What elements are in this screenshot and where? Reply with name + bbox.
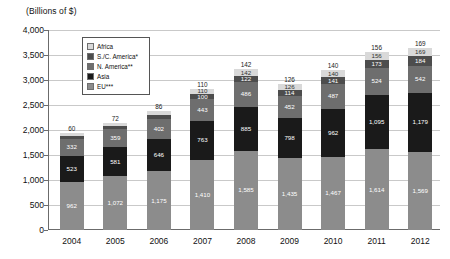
bar-segment-value: 523 xyxy=(60,166,84,172)
stacked-bar[interactable]: 1561735241,0951,614 xyxy=(365,52,389,230)
y-axis-tick-label: 1,000 xyxy=(6,175,44,185)
bar-segment[interactable]: 141 xyxy=(321,77,345,84)
bar-segment[interactable]: 359 xyxy=(103,129,127,147)
bar-segment-value: 332 xyxy=(60,144,84,150)
bar-segment[interactable]: 142 xyxy=(234,69,258,76)
bar-segment[interactable]: 523 xyxy=(60,156,84,182)
bar-segment-value: 1,175 xyxy=(147,198,171,204)
bar-segment[interactable]: 646 xyxy=(147,139,171,171)
bar-segment[interactable]: 1,569 xyxy=(408,152,432,230)
stacked-bar[interactable]: 1691845421,1791,569 xyxy=(408,48,432,230)
bar-segment-value: 1,585 xyxy=(234,187,258,193)
bar-segment-value: 962 xyxy=(321,130,345,136)
bar-segment-value: 126 xyxy=(278,84,302,90)
bar-segment[interactable]: 542 xyxy=(408,66,432,93)
stacked-bar[interactable]: 6056332523962 xyxy=(60,133,84,230)
stacked-bar[interactable]: 72663595811,072 xyxy=(103,123,127,230)
y-axis-tick-mark xyxy=(44,230,48,231)
bar-segment[interactable]: 1,614 xyxy=(365,149,389,230)
x-axis-tick-label-2011: 2011 xyxy=(355,236,399,246)
bar-segment-value: 1,095 xyxy=(365,119,389,125)
bar-group-2005[interactable]: 72663595811,07272 xyxy=(103,123,127,230)
stacked-bar[interactable]: 86814026461,175 xyxy=(147,111,171,230)
bar-segment[interactable]: 1,585 xyxy=(234,151,258,230)
legend-item[interactable]: N. America** xyxy=(87,61,145,71)
bar-segment-value: 140 xyxy=(321,71,345,77)
x-axis-tick-label-2005: 2005 xyxy=(93,236,137,246)
bar-segment[interactable]: 885 xyxy=(234,107,258,151)
bar-segment[interactable]: 156 xyxy=(365,52,389,60)
bar-segment[interactable]: 581 xyxy=(103,147,127,176)
legend-item[interactable]: Africa xyxy=(87,41,145,51)
bar-segment-value: 402 xyxy=(147,126,171,132)
legend-item[interactable]: Asia xyxy=(87,71,145,81)
bar-top-label: 126 xyxy=(272,76,308,83)
legend-item[interactable]: S./C. America* xyxy=(87,51,145,61)
bar-segment-value: 184 xyxy=(408,58,432,64)
bar-group-2004[interactable]: 605633252396260 xyxy=(60,133,84,230)
bar-segment[interactable]: 1,467 xyxy=(321,157,345,230)
bar-segment-value: 1,072 xyxy=(103,200,127,206)
bar-segment[interactable]: 452 xyxy=(278,96,302,119)
bar-segment[interactable]: 487 xyxy=(321,84,345,108)
bar-top-label: 72 xyxy=(97,115,133,122)
bar-segment[interactable]: 1,435 xyxy=(278,158,302,230)
bar-segment[interactable]: 1,095 xyxy=(365,95,389,150)
bar-group-2012[interactable]: 1691845421,1791,569169 xyxy=(408,48,432,230)
bar-segment-value: 1,410 xyxy=(190,192,214,198)
bar-group-2008[interactable]: 1421224868851,585142 xyxy=(234,69,258,230)
bar-segment[interactable]: 763 xyxy=(190,121,214,159)
legend-swatch-icon xyxy=(87,73,94,80)
bar-segment-value: 581 xyxy=(103,159,127,165)
stacked-bar[interactable]: 1101004437631,410 xyxy=(190,89,214,230)
bar-segment-value: 885 xyxy=(234,126,258,132)
y-axis-title: (Billions of $) xyxy=(26,6,77,16)
x-axis-tick-label-2012: 2012 xyxy=(398,236,442,246)
y-axis-tick-label: 1,500 xyxy=(6,150,44,160)
bar-segment[interactable]: 173 xyxy=(365,60,389,69)
bar-segment[interactable]: 1,179 xyxy=(408,93,432,152)
legend-swatch-icon xyxy=(87,83,94,90)
bar-segment[interactable]: 798 xyxy=(278,118,302,158)
bar-group-2010[interactable]: 1401414879621,467140 xyxy=(321,70,345,230)
bar-segment[interactable]: 962 xyxy=(60,182,84,230)
bar-segment[interactable]: 524 xyxy=(365,68,389,94)
x-axis-tick-label-2009: 2009 xyxy=(268,236,312,246)
bar-segment-value: 486 xyxy=(234,91,258,97)
bar-segment[interactable]: 1,175 xyxy=(147,171,171,230)
bar-segment-value: 798 xyxy=(278,135,302,141)
legend-swatch-icon xyxy=(87,63,94,70)
bar-group-2007[interactable]: 1101004437631,410110 xyxy=(190,89,214,230)
bar-top-label: 169 xyxy=(402,40,438,47)
bar-group-2009[interactable]: 1261144527981,435126 xyxy=(278,84,302,230)
bar-segment[interactable]: 184 xyxy=(408,56,432,65)
bar-segment[interactable]: 962 xyxy=(321,109,345,157)
bar-segment[interactable]: 140 xyxy=(321,70,345,77)
bar-segment-value: 962 xyxy=(60,203,84,209)
bar-group-2006[interactable]: 86814026461,17586 xyxy=(147,111,171,230)
bar-segment[interactable]: 443 xyxy=(190,99,214,121)
y-axis-tick-label: 3,500 xyxy=(6,50,44,60)
stacked-bar[interactable]: 1421224868851,585 xyxy=(234,69,258,230)
bar-segment[interactable]: 1,410 xyxy=(190,160,214,231)
stacked-bar[interactable]: 1261144527981,435 xyxy=(278,84,302,230)
bar-segment[interactable]: 486 xyxy=(234,82,258,106)
bar-group-2011[interactable]: 1561735241,0951,614156 xyxy=(365,52,389,230)
bar-segment[interactable]: 332 xyxy=(60,139,84,156)
x-axis-tick-label-2008: 2008 xyxy=(224,236,268,246)
bar-segment[interactable]: 1,072 xyxy=(103,176,127,230)
bar-top-label: 60 xyxy=(54,125,90,132)
bar-top-label: 142 xyxy=(228,61,264,68)
bar-segment-value: 763 xyxy=(190,137,214,143)
legend-item[interactable]: EU*** xyxy=(87,81,145,91)
chart-legend: AfricaS./C. America*N. America**AsiaEU**… xyxy=(82,37,150,95)
bar-segment[interactable]: 169 xyxy=(408,48,432,56)
y-axis-tick-label: 4,000 xyxy=(6,25,44,35)
x-axis-tick-label-2010: 2010 xyxy=(311,236,355,246)
y-axis-tick-label: 3,000 xyxy=(6,75,44,85)
bar-segment-value: 542 xyxy=(408,76,432,82)
stacked-bar[interactable]: 1401414879621,467 xyxy=(321,70,345,230)
bar-segment-value: 646 xyxy=(147,152,171,158)
bar-segment[interactable]: 402 xyxy=(147,119,171,139)
bar-segment-value: 487 xyxy=(321,93,345,99)
